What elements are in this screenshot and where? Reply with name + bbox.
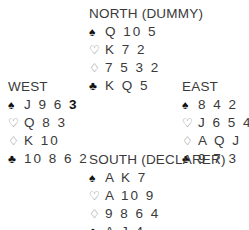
west-hand: WEST ♠J 9 6 3 ♡Q 8 3 ♢K 10 ♣10 8 6 2 (8, 78, 89, 168)
north-diamonds: ♢7 5 3 2 (89, 59, 203, 77)
west-title: WEST (8, 78, 89, 96)
south-clubs: ♣A J 4 (89, 223, 226, 230)
diamond-icon: ♢ (89, 205, 105, 223)
club-icon: ♣ (8, 150, 24, 168)
south-hand: SOUTH (DECLARER) ♠A K 7 ♡A 10 9 ♢9 8 6 4… (89, 151, 226, 230)
east-hearts: ♡J 6 5 4 (182, 114, 249, 132)
spade-icon: ♠ (182, 96, 198, 114)
spade-icon: ♠ (89, 169, 105, 187)
south-title: SOUTH (DECLARER) (89, 151, 226, 169)
north-hearts: ♡K 7 2 (89, 41, 203, 59)
north-title: NORTH (DUMMY) (89, 5, 203, 23)
diamond-icon: ♢ (182, 132, 198, 150)
diamond-icon: ♢ (8, 132, 24, 150)
south-diamonds: ♢9 8 6 4 (89, 205, 226, 223)
club-icon: ♣ (89, 223, 105, 230)
west-clubs: ♣10 8 6 2 (8, 150, 89, 168)
south-spades: ♠A K 7 (89, 169, 226, 187)
east-diamonds: ♢A Q J (182, 132, 249, 150)
spade-icon: ♠ (8, 96, 24, 114)
north-spades: ♠Q 10 5 (89, 23, 203, 41)
west-hearts: ♡Q 8 3 (8, 114, 89, 132)
diamond-icon: ♢ (89, 59, 105, 77)
club-icon: ♣ (89, 77, 105, 95)
heart-icon: ♡ (182, 114, 198, 132)
heart-icon: ♡ (8, 114, 24, 132)
west-spades: ♠J 9 6 3 (8, 96, 89, 114)
spade-icon: ♠ (89, 23, 105, 41)
heart-icon: ♡ (89, 187, 105, 205)
west-diamonds: ♢K 10 (8, 132, 89, 150)
heart-icon: ♡ (89, 41, 105, 59)
east-spades: ♠8 4 2 (182, 96, 249, 114)
south-hearts: ♡A 10 9 (89, 187, 226, 205)
led-card: 3 (69, 96, 79, 114)
east-title: EAST (182, 78, 249, 96)
